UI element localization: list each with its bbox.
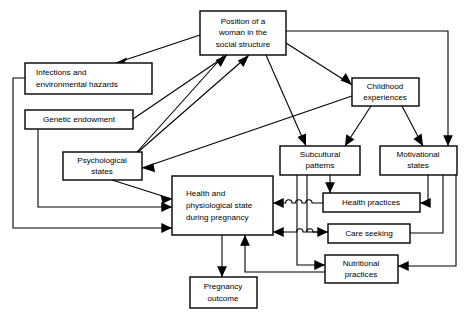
edge-childhood-to-subcultural xyxy=(345,106,371,146)
node-pregnancy-line-2: outcome xyxy=(207,294,239,303)
node-careseeking[interactable]: Care seeking xyxy=(328,224,410,243)
node-health[interactable]: Health and physiological state during pr… xyxy=(172,176,273,235)
edge-subcultural-to-nutritional xyxy=(297,175,325,270)
node-nutritional[interactable]: Nutritional practices xyxy=(325,255,398,283)
node-childhood-line-2: experiences xyxy=(363,93,407,102)
node-health-line-1: Health and xyxy=(186,189,225,198)
edge-nutritional-to-health xyxy=(240,235,325,272)
node-motivational-line-2: states xyxy=(407,161,429,170)
node-health-line-2: physiological state xyxy=(186,201,253,210)
edge-motivational-to-nutritional xyxy=(398,175,456,271)
node-nutritional-line-2: practices xyxy=(345,270,377,279)
node-subcultural-line-1: Subcultural xyxy=(300,150,341,159)
node-childhood-line-1: Childhood xyxy=(367,82,403,91)
node-motivational[interactable]: Motivational states xyxy=(380,146,457,175)
node-psychological-line-2: states xyxy=(91,167,113,176)
node-nutritional-line-1: Nutritional xyxy=(343,259,380,268)
edge-motivational-to-healthpractices xyxy=(420,175,431,208)
edge-health-to-pregnancy xyxy=(217,235,227,277)
node-position-line-1: Position of a xyxy=(221,17,266,26)
node-psychological[interactable]: Psychological states xyxy=(63,152,142,180)
node-health-line-3: during pregnancy xyxy=(186,213,249,222)
node-position[interactable]: Position of a woman in the social struct… xyxy=(200,11,286,55)
node-careseeking-label: Care seeking xyxy=(345,229,393,238)
node-pregnancy-line-1: Pregnancy xyxy=(204,282,244,291)
edge-psychological-to-health xyxy=(112,180,172,204)
node-childhood[interactable]: Childhood experiences xyxy=(352,78,419,106)
flow-diagram: Position of a woman in the social struct… xyxy=(0,0,470,322)
edge-position-to-infections xyxy=(116,35,200,66)
node-psychological-line-1: Psychological xyxy=(77,156,127,165)
edge-position-to-subcultural xyxy=(266,55,306,146)
node-infections[interactable]: Infections and environmental hazards xyxy=(25,63,152,94)
edge-position-to-childhood xyxy=(286,43,352,85)
node-genetic-label: Genetic endowment xyxy=(43,115,116,124)
diagram-canvas: Position of a woman in the social struct… xyxy=(0,0,470,322)
node-infections-line-2: environmental hazards xyxy=(36,80,118,89)
edge-healthpractices-to-health xyxy=(273,198,323,208)
node-pregnancy[interactable]: Pregnancy outcome xyxy=(190,277,257,308)
node-healthpractices-label: Health practices xyxy=(342,198,400,207)
node-motivational-line-1: Motivational xyxy=(396,150,439,159)
node-infections-line-1: Infections and xyxy=(36,68,86,77)
node-healthpractices[interactable]: Health practices xyxy=(323,193,420,212)
node-genetic[interactable]: Genetic endowment xyxy=(25,110,133,129)
node-subcultural-line-2: patterns xyxy=(305,161,334,170)
node-position-line-2: woman in the xyxy=(218,28,268,37)
node-layer: Position of a woman in the social struct… xyxy=(25,11,457,308)
edge-childhood-to-motivational xyxy=(402,106,423,146)
node-position-line-3: social structure xyxy=(216,40,271,49)
edge-subcultural-to-healthpractices xyxy=(325,175,335,193)
node-subcultural[interactable]: Subcultural patterns xyxy=(280,146,360,175)
